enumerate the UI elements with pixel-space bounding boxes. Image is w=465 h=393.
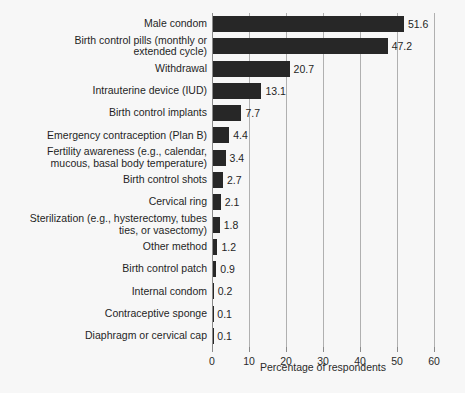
category-label: Emergency contraception (Plan B) (47, 124, 207, 146)
chart-row[interactable]: Sterilization (e.g., hysterectomy, tubes… (0, 213, 465, 235)
bar-value-label: 1.8 (224, 213, 239, 235)
chart-row[interactable]: Intrauterine device (IUD)13.1 (0, 80, 465, 102)
chart-row[interactable]: Birth control patch0.9 (0, 258, 465, 280)
x-tick-mark-50 (397, 347, 398, 352)
x-tick-mark-60 (434, 347, 435, 352)
chart-row[interactable]: Birth control implants7.7 (0, 102, 465, 124)
bar[interactable] (213, 127, 229, 143)
bar-value-label: 0.9 (220, 258, 235, 280)
category-label: Cervical ring (149, 191, 207, 213)
x-tick-mark-40 (360, 347, 361, 352)
category-label: Sterilization (e.g., hysterectomy, tubes… (30, 213, 207, 235)
bar-value-label: 0.1 (217, 302, 232, 324)
x-tick-mark-0 (212, 347, 213, 352)
bar[interactable] (213, 239, 217, 255)
chart-row[interactable]: Birth control shots2.7 (0, 169, 465, 191)
bar-value-label: 51.6 (408, 13, 428, 35)
chart-row[interactable]: Cervical ring2.1 (0, 191, 465, 213)
bar-value-label: 3.4 (230, 147, 245, 169)
bar-value-label: 7.7 (245, 102, 260, 124)
bar-value-label: 4.4 (233, 124, 248, 146)
bar[interactable] (213, 83, 261, 99)
category-label: Intrauterine device (IUD) (93, 80, 207, 102)
x-axis-title: Percentage of respondents (212, 361, 434, 373)
chart-row[interactable]: Internal condom0.2 (0, 280, 465, 302)
x-tick-mark-10 (249, 347, 250, 352)
category-label: Fertility awareness (e.g., calendar, muc… (47, 147, 207, 169)
category-label: Birth control pills (monthly or extended… (75, 35, 207, 57)
chart-row[interactable]: Male condom51.6 (0, 13, 465, 35)
chart-row[interactable]: Birth control pills (monthly or extended… (0, 35, 465, 57)
bar[interactable] (213, 261, 216, 277)
bar[interactable] (213, 38, 388, 54)
chart-row[interactable]: Withdrawal20.7 (0, 58, 465, 80)
chart-row[interactable]: Contraceptive sponge0.1 (0, 302, 465, 324)
bar-value-label: 20.7 (294, 58, 314, 80)
x-tick-mark-20 (286, 347, 287, 352)
bar[interactable] (213, 172, 223, 188)
bar[interactable] (213, 150, 226, 166)
bar-value-label: 0.2 (218, 280, 233, 302)
bar[interactable] (213, 61, 290, 77)
bar-chart: 0102030405060 Male condom51.6Birth contr… (0, 0, 465, 393)
bar-value-label: 2.1 (225, 191, 240, 213)
category-label: Withdrawal (155, 58, 207, 80)
category-label: Birth control patch (122, 258, 207, 280)
category-label: Birth control implants (109, 102, 207, 124)
bar[interactable] (213, 105, 241, 121)
bar-value-label: 2.7 (227, 169, 242, 191)
bar[interactable] (213, 283, 214, 299)
category-label: Contraceptive sponge (105, 302, 207, 324)
bar-value-label: 47.2 (392, 35, 412, 57)
bar[interactable] (213, 194, 221, 210)
bar[interactable] (213, 217, 220, 233)
chart-row[interactable]: Diaphragm or cervical cap0.1 (0, 325, 465, 347)
category-label: Internal condom (132, 280, 207, 302)
x-tick-mark-30 (323, 347, 324, 352)
chart-row[interactable]: Emergency contraception (Plan B)4.4 (0, 124, 465, 146)
category-label: Birth control shots (123, 169, 207, 191)
chart-row[interactable]: Other method1.2 (0, 236, 465, 258)
category-label: Male condom (144, 13, 207, 35)
category-label: Other method (143, 236, 207, 258)
bar-value-label: 13.1 (265, 80, 285, 102)
bar-value-label: 0.1 (217, 325, 232, 347)
bar[interactable] (213, 16, 404, 32)
chart-row[interactable]: Fertility awareness (e.g., calendar, muc… (0, 147, 465, 169)
category-label: Diaphragm or cervical cap (85, 325, 207, 347)
bar-value-label: 1.2 (221, 236, 236, 258)
